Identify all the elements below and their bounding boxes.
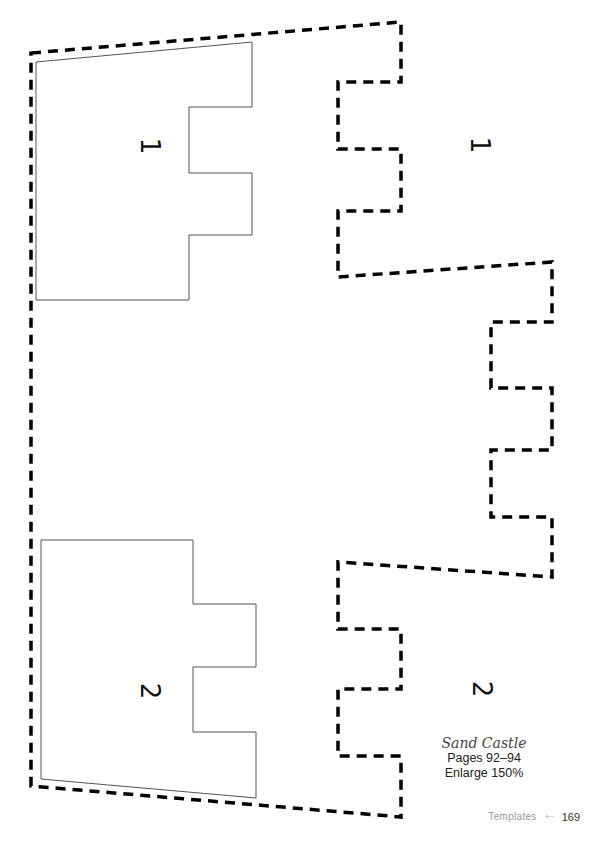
piece-label-2-left: 2 <box>137 676 163 706</box>
caption-title: Sand Castle <box>424 735 544 751</box>
piece-1-outline <box>36 42 252 300</box>
piece-2-outline <box>41 540 256 798</box>
template-caption: Sand Castle Pages 92–94 Enlarge 150% <box>424 735 544 781</box>
caption-pages: Pages 92–94 <box>424 751 544 766</box>
arrow-left-icon: ⇠ <box>545 810 554 823</box>
piece-label-2-right: 2 <box>469 674 495 704</box>
piece-label-1-right: 1 <box>467 130 493 160</box>
footer-section: Templates <box>488 811 536 822</box>
page-number: 169 <box>562 811 580 823</box>
caption-enlarge: Enlarge 150% <box>424 766 544 781</box>
piece-label-1-left: 1 <box>137 131 163 161</box>
sand-castle-template <box>0 0 594 856</box>
page-footer: Templates ⇠ 169 <box>488 810 580 823</box>
